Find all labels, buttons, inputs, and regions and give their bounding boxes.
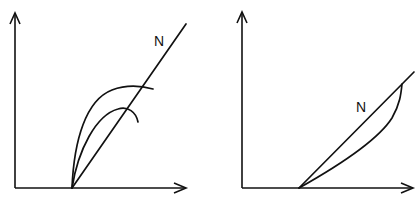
right-line-n [299,72,414,188]
left-line-label: N [154,33,164,49]
left-outer-curve [72,86,153,188]
right-line-label: N [356,99,366,115]
right-panel: N [237,12,414,193]
left-inner-curve [72,108,138,188]
left-line-n [72,24,186,188]
left-panel: N [10,13,186,193]
diagram-canvas: N N [0,0,420,203]
